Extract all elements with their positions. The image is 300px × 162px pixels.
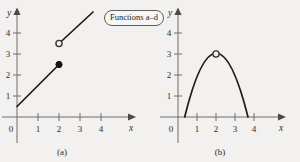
panel-b-axes: [160, 8, 286, 144]
y-tick-label-2-a: 2: [6, 70, 11, 80]
y-tick-label-1-a: 1: [6, 91, 11, 101]
panel-a-data: [17, 12, 93, 107]
figure-container: 0 1 2 3 4 1 2 3 4 x y (a): [0, 0, 300, 162]
parabola-curve-b: [185, 53, 248, 117]
upper-segment-a: [59, 12, 93, 44]
closed-endpoint-dot-a: [56, 61, 62, 67]
panel-a-axes: [2, 8, 136, 144]
y-tick-label-4-a: 4: [6, 28, 11, 38]
panel-b-data: [185, 51, 248, 117]
y-tick-label-3-b: 3: [167, 49, 172, 59]
panel-b-graph: 0 1 2 3 4 1 2 3 4 x y (b): [150, 0, 300, 162]
x-tick-label-1-a: 1: [36, 124, 41, 134]
origin-label-b: 0: [169, 124, 174, 134]
y-axis-label-b: y: [167, 8, 173, 18]
y-tick-label-1-b: 1: [167, 91, 172, 101]
x-tick-label-3-a: 3: [78, 124, 83, 134]
x-tick-label-2-a: 2: [57, 124, 62, 134]
x-axis-label-b: x: [278, 123, 284, 133]
y-tick-label-3-a: 3: [6, 49, 11, 59]
x-axis-arrowhead-b: [278, 113, 286, 120]
panel-caption-b: (b): [215, 147, 226, 157]
x-tick-label-1-b: 1: [195, 124, 200, 134]
origin-label-a: 0: [9, 124, 14, 134]
panel-a-tick-labels: 0 1 2 3 4 1 2 3 4 x y: [6, 8, 134, 134]
y-axis-arrowhead-a: [13, 8, 20, 16]
y-tick-label-4-b: 4: [167, 28, 172, 38]
y-tick-label-2-b: 2: [167, 70, 172, 80]
y-axis-arrowhead-b: [174, 8, 181, 16]
x-tick-label-4-a: 4: [99, 124, 104, 134]
vertex-open-dot-b: [213, 51, 219, 57]
open-endpoint-dot-a: [56, 40, 62, 46]
x-tick-label-3-b: 3: [233, 124, 238, 134]
callout-text: Functions a–d: [110, 12, 158, 22]
x-tick-label-2-b: 2: [214, 124, 219, 134]
y-axis-label-a: y: [6, 8, 12, 18]
x-axis-label-a: x: [128, 123, 134, 133]
x-axis-arrowhead-a: [128, 113, 136, 120]
x-tick-label-4-b: 4: [252, 124, 257, 134]
panel-caption-a: (a): [57, 147, 67, 157]
lower-segment-a: [17, 65, 59, 107]
functions-callout-label: Functions a–d: [104, 10, 164, 26]
